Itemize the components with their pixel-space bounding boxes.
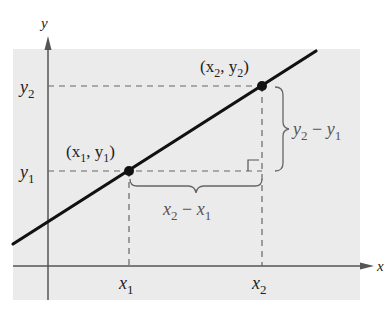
plot-background [13,49,360,300]
point-1-dot [124,166,134,176]
x-axis-label: x [376,258,384,274]
point-2-dot [257,81,267,91]
y-axis-arrow-icon [45,36,52,50]
x-axis-arrow-icon [360,263,374,270]
y-axis-label: y [39,15,48,31]
slope-diagram: y x (x1, y1) (x2, y2) y2 y1 x1 x2 y2 − y… [0,0,385,313]
